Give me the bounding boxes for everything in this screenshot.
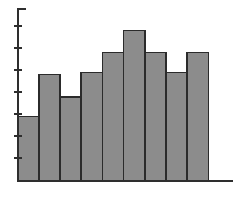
bar-1	[18, 117, 39, 181]
bar-8	[166, 72, 187, 180]
bar-4	[81, 72, 102, 180]
histogram-figure	[0, 0, 238, 199]
chart-canvas	[0, 0, 238, 199]
bar-2	[39, 75, 60, 181]
bar-3	[60, 97, 81, 181]
bar-6	[124, 31, 145, 181]
bar-9	[187, 53, 208, 181]
bars-group	[18, 31, 209, 181]
bar-5	[102, 53, 123, 181]
bar-7	[145, 53, 166, 181]
